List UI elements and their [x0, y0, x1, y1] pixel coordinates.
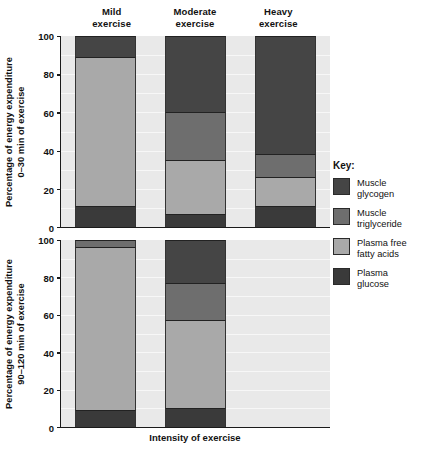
y-axis-ticks-top: 020406080100: [30, 36, 58, 228]
legend-label-muscle-triglyceride-line1: Muscle: [357, 208, 402, 219]
bar-column: [151, 240, 241, 427]
legend-label-muscle-glycogen-line2: glycogen: [357, 189, 394, 200]
category-header-mild-line2: exercise: [70, 18, 153, 30]
y-tick-label-bottom-100: 100: [38, 235, 54, 246]
legend-label-plasma-ffa-line2: fatty acids: [357, 249, 407, 260]
legend-label-muscle-triglyceride-line2: triglyceride: [357, 219, 402, 230]
legend-item-muscle-triglyceride: Muscle triglyceride: [333, 208, 428, 229]
y-tick-label-top-0: 0: [49, 223, 54, 234]
bar-segment: [75, 410, 136, 427]
category-header-heavy: Heavy exercise: [237, 6, 320, 36]
y-axis-label-bottom-line1: Percentage of energy expenditure: [4, 259, 16, 409]
category-header-mild-line1: Mild: [70, 6, 153, 18]
y-axis-label-top-line2: 0–30 min of exercise: [15, 57, 27, 207]
x-axis-label: Intensity of exercise: [60, 432, 330, 443]
legend-label-plasma-glucose-line1: Plasma: [357, 268, 389, 279]
stacked-bar: [75, 240, 136, 427]
legend-title: Key:: [333, 160, 428, 171]
bar-segment: [165, 112, 226, 160]
y-tick-label-top-80: 80: [43, 69, 54, 80]
y-tick-label-bottom-20: 20: [43, 385, 54, 396]
stacked-bar: [255, 36, 316, 227]
bar-group-bottom: [61, 240, 330, 427]
bar-segment: [75, 247, 136, 410]
bar-column: [151, 36, 241, 227]
plot-area-top: [60, 36, 330, 228]
bar-column: [240, 36, 330, 227]
legend-label-plasma-ffa-line1: Plasma free: [357, 238, 407, 249]
bar-segment: [255, 36, 316, 154]
y-tick-label-top-20: 20: [43, 184, 54, 195]
plot-area-bottom: [60, 240, 330, 428]
bar-segment: [255, 154, 316, 177]
bar-segment: [165, 283, 226, 320]
bar-segment: [255, 206, 316, 227]
bar-segment: [75, 240, 136, 247]
y-tick-label-bottom-0: 0: [49, 423, 54, 434]
y-tickmark: [57, 427, 61, 428]
chart-panel-0-30-min: Percentage of energy expenditure 0–30 mi…: [0, 36, 330, 228]
stacked-bar: [75, 36, 136, 227]
stacked-bar: [165, 240, 226, 427]
category-header-row: Mild exercise Moderate exercise Heavy ex…: [70, 6, 320, 36]
category-header-mild: Mild exercise: [70, 6, 153, 36]
legend-label-muscle-glycogen-line1: Muscle: [357, 178, 394, 189]
legend-item-muscle-glycogen: Muscle glycogen: [333, 178, 428, 199]
legend-label-plasma-glucose-line2: glucose: [357, 279, 389, 290]
bar-segment: [165, 214, 226, 227]
bar-column: [61, 36, 151, 227]
stacked-bar-figure: Mild exercise Moderate exercise Heavy ex…: [0, 0, 430, 458]
category-header-moderate-line1: Moderate: [153, 6, 236, 18]
y-tick-label-top-60: 60: [43, 107, 54, 118]
bar-segment: [165, 36, 226, 112]
bar-segment: [165, 408, 226, 427]
y-tick-label-bottom-60: 60: [43, 310, 54, 321]
legend-swatch-plasma-glucose: [333, 268, 350, 285]
bar-segment: [165, 160, 226, 213]
legend: Key: Muscle glycogen Muscle triglyceride…: [333, 160, 428, 298]
bar-segment: [165, 240, 226, 283]
bar-column: [61, 240, 151, 427]
y-tickmark: [57, 227, 61, 228]
y-tick-label-top-100: 100: [38, 31, 54, 42]
bar-segment: [75, 206, 136, 227]
category-header-heavy-line2: exercise: [237, 18, 320, 30]
legend-swatch-plasma-free-fatty-acids: [333, 238, 350, 255]
legend-swatch-muscle-triglyceride: [333, 208, 350, 225]
bar-group-top: [61, 36, 330, 227]
y-tick-label-bottom-40: 40: [43, 347, 54, 358]
legend-item-plasma-glucose: Plasma glucose: [333, 268, 428, 289]
bar-segment: [75, 57, 136, 206]
bar-segment: [165, 320, 226, 408]
y-axis-ticks-bottom: 020406080100: [30, 240, 58, 428]
y-axis-label-top-line1: Percentage of energy expenditure: [4, 57, 16, 207]
category-header-heavy-line1: Heavy: [237, 6, 320, 18]
bar-segment: [255, 177, 316, 206]
category-header-moderate: Moderate exercise: [153, 6, 236, 36]
y-axis-label-bottom-line2: 90–120 min of exercise: [15, 259, 27, 409]
y-tick-label-top-40: 40: [43, 146, 54, 157]
legend-item-plasma-free-fatty-acids: Plasma free fatty acids: [333, 238, 428, 259]
legend-swatch-muscle-glycogen: [333, 178, 350, 195]
chart-panel-90-120-min: Percentage of energy expenditure 90–120 …: [0, 240, 330, 428]
category-header-moderate-line2: exercise: [153, 18, 236, 30]
bar-segment: [75, 36, 136, 57]
stacked-bar: [165, 36, 226, 227]
y-axis-label-top: Percentage of energy expenditure 0–30 mi…: [0, 36, 30, 228]
bar-column: [240, 240, 330, 427]
y-axis-label-bottom: Percentage of energy expenditure 90–120 …: [0, 240, 30, 428]
y-tick-label-bottom-80: 80: [43, 272, 54, 283]
